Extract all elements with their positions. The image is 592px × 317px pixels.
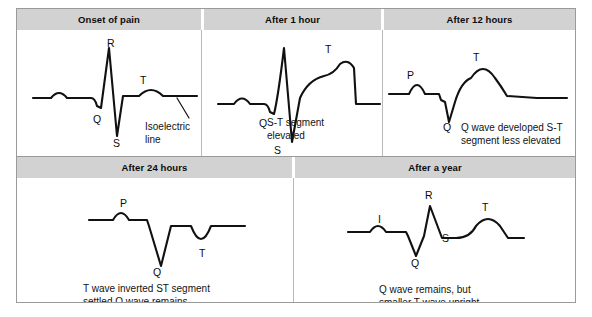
panel-row-bottom: After 24 hours After a year P Q T T wave… [17,156,575,302]
ecg-label-q: Q [93,114,101,125]
ecg-panel-after-a-year: I R Q S T Q wave remains, but smaller T … [294,178,575,302]
panel-row-top: Onset of pain After 1 hour After 12 hour… [17,9,575,156]
ecg-label-t: T [482,202,488,213]
ecg-panel-after-1-hour: Q S T S-T segment elevated [202,30,382,156]
ecg-label-r: R [107,38,115,49]
panel-body-row-bottom: P Q T T wave inverted ST segment settled… [17,178,575,302]
ecg-caption-after-1-hour: S-T segment elevated [267,116,324,142]
ecg-label-q: Q [443,122,451,133]
ecg-caption-after-12-hours: Q wave developed S-T segment less elevat… [461,121,563,147]
header-band-bottom: After 24 hours After a year [17,157,575,178]
ecg-panel-after-12-hours: P Q T Q wave developed S-T segment less … [383,30,575,156]
ecg-label-t: T [199,248,205,259]
ecg-label-q: Q [259,118,267,129]
ecg-label-p: P [120,198,127,209]
ecg-label-p: I [378,214,381,225]
ecg-caption-after-24-hours: T wave inverted ST segment settled Q wav… [83,282,210,302]
panel-header-after-a-year: After a year [295,157,575,178]
ecg-label-t: T [140,75,146,86]
ecg-label-s: S [113,138,120,149]
ecg-caption-after-a-year: Q wave remains, but smaller T wave uprig… [379,283,479,302]
ecg-annotation-isoelectric-line: Isoelectric line [145,120,190,146]
panel-header-after-12-hours: After 12 hours [384,9,575,30]
ecg-trace-after-24-hours [87,196,247,276]
ecg-label-r: R [425,190,433,201]
header-band-top: Onset of pain After 1 hour After 12 hour… [17,9,575,30]
ecg-panel-after-24-hours: P Q T T wave inverted ST segment settled… [17,178,293,302]
ecg-label-t: T [325,44,331,55]
ecg-label-q: Q [411,258,419,269]
ecg-progression-figure: Onset of pain After 1 hour After 12 hour… [16,8,576,303]
ecg-label-p: P [407,70,414,81]
panel-body-row-top: R Q S T Isoelectric line Q S T S-T segme… [17,30,575,156]
ecg-label-s: S [274,145,281,156]
panel-header-after-1-hour: After 1 hour [204,9,381,30]
ecg-trace-after-a-year [346,194,526,274]
ecg-label-q: Q [153,267,161,278]
ecg-panel-onset-of-pain: R Q S T Isoelectric line [17,30,201,156]
ecg-label-s: S [442,233,449,244]
panel-header-after-24-hours: After 24 hours [17,157,292,178]
ecg-trace-after-12-hours [387,52,569,132]
panel-header-onset-of-pain: Onset of pain [17,9,201,30]
ecg-label-t: T [473,52,479,63]
